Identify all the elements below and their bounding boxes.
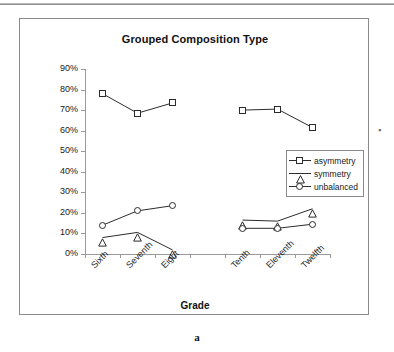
chart-frame: Grouped Composition Type 0%10%20%30%40%5… bbox=[19, 18, 369, 315]
data-point-marker-square bbox=[309, 124, 316, 131]
legend-item-asymmetry: asymmetry bbox=[289, 154, 360, 167]
legend-key-triangle-icon bbox=[289, 168, 311, 179]
data-point-marker-square bbox=[239, 107, 246, 114]
data-point-marker-circle bbox=[309, 221, 316, 228]
data-point-marker-square bbox=[169, 99, 176, 106]
chart-legend: asymmetry symmetry unbalanced bbox=[286, 150, 364, 197]
data-point-marker-triangle bbox=[133, 228, 142, 246]
data-point-marker-square bbox=[99, 90, 106, 97]
legend-item-symmetry: symmetry bbox=[289, 167, 360, 180]
x-axis-title: Grade bbox=[20, 300, 370, 311]
legend-key-circle-icon bbox=[289, 181, 311, 192]
data-point-marker-triangle bbox=[308, 204, 317, 222]
figure-page: Grouped Composition Type 0%10%20%30%40%5… bbox=[0, 0, 394, 352]
data-point-marker-square bbox=[134, 110, 141, 117]
data-point-marker-circle bbox=[274, 225, 281, 232]
data-point-marker-circle bbox=[99, 222, 106, 229]
page-top-rule-shadow bbox=[0, 4, 394, 5]
data-point-marker-square bbox=[274, 106, 281, 113]
legend-label-asymmetry: asymmetry bbox=[311, 156, 356, 166]
data-point-marker-circle bbox=[239, 225, 246, 232]
legend-item-unbalanced: unbalanced bbox=[289, 180, 360, 193]
legend-label-unbalanced: unbalanced bbox=[311, 182, 358, 192]
legend-key-square-icon bbox=[289, 155, 311, 166]
page-annotation-mark: ▪ bbox=[378, 126, 381, 135]
figure-caption: a bbox=[0, 331, 394, 343]
legend-label-symmetry: symmetry bbox=[311, 169, 351, 179]
